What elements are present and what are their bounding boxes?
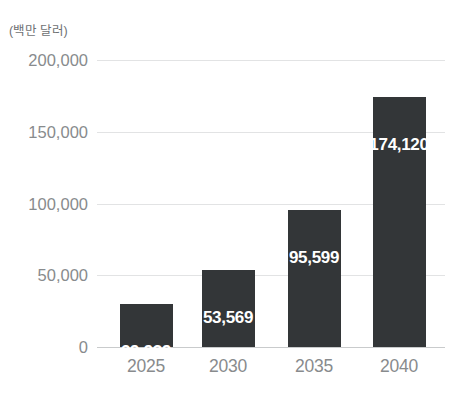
y-axis-tick-label: 0 (79, 338, 88, 357)
x-axis-tick-label: 2040 (380, 356, 418, 377)
x-axis-tick-label: 2030 (209, 356, 247, 377)
plot-area: 29,93953,56995,599174,120 (97, 60, 445, 347)
x-axis-tick-label: 2025 (127, 356, 165, 377)
y-axis-tick-label: 150,000 (28, 122, 88, 141)
x-axis-tick-labels: 2025203020352040 (97, 356, 445, 386)
x-axis-tick-label: 2035 (295, 356, 333, 377)
bar: 95,599 (288, 210, 341, 347)
bar: 53,569 (202, 270, 255, 347)
bar-value-label: 95,599 (289, 249, 339, 266)
gridline (97, 60, 445, 61)
y-axis-tick-label: 100,000 (28, 194, 88, 213)
bar-value-label: 174,120 (369, 136, 428, 153)
bar: 174,120 (373, 97, 426, 347)
bar-chart: (백만 달러) 050,000100,000150,000200,000 29,… (0, 0, 454, 396)
y-axis-tick-label: 200,000 (28, 51, 88, 70)
bar: 29,939 (120, 304, 173, 347)
y-axis-tick-labels: 050,000100,000150,000200,000 (0, 0, 88, 396)
bar-value-label: 53,569 (203, 309, 253, 326)
y-axis-tick-label: 50,000 (38, 266, 88, 285)
